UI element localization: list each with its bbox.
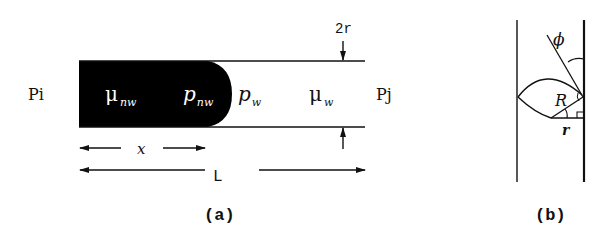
tube-radius-label: r: [562, 122, 571, 138]
figure-a: Pi Pj μnw pnw pw μw 2r x L (a): [28, 21, 392, 225]
caption-b: (b): [535, 206, 566, 225]
outlet-pressure-label: Pj: [376, 85, 392, 104]
caption-a: (a): [204, 206, 235, 225]
wetting-pressure-label: pw: [238, 82, 262, 109]
curvature-radius-label: R: [554, 91, 567, 110]
capillary-diagram: Pi Pj μnw pnw pw μw 2r x L (a): [0, 0, 607, 246]
contact-angle-arc: [568, 58, 584, 62]
contact-point-arc: [577, 93, 579, 101]
meniscus-lower-arc: [518, 97, 551, 118]
meniscus-upper-arc: [518, 79, 582, 97]
inlet-pressure-label: Pi: [28, 85, 44, 104]
x-label: x: [137, 140, 146, 158]
figure-b: ϕ R r (b): [517, 20, 584, 225]
diameter-label: 2r: [335, 21, 352, 37]
nonwetting-fluid-region: [79, 61, 232, 127]
radius-angle-arc: [565, 109, 567, 118]
contact-angle-label: ϕ: [553, 29, 565, 49]
l-label: L: [213, 168, 223, 186]
wetting-viscosity-label: μw: [309, 82, 334, 109]
